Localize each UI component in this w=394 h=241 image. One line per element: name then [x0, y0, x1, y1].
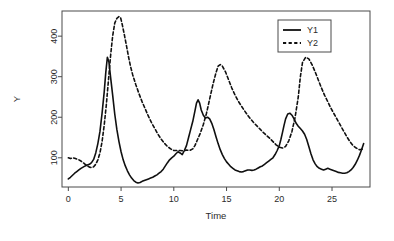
x-axis-tick-label: 20	[274, 194, 284, 204]
x-axis-tick-label: 0	[66, 194, 71, 204]
y-axis-tick-label: 100	[49, 150, 59, 165]
chart-screenshot: 1002003004000510152025TimeYY1Y2	[0, 0, 394, 241]
y-axis-tick-label: 300	[49, 69, 59, 84]
legend-box	[278, 20, 331, 52]
legend-label-y2: Y2	[307, 38, 318, 48]
y-axis-title: Y	[11, 95, 22, 102]
legend-label-y1: Y1	[307, 25, 318, 35]
line-chart: 1002003004000510152025TimeYY1Y2	[0, 0, 394, 241]
x-axis-tick-label: 10	[169, 194, 179, 204]
series-line-y1	[68, 57, 363, 183]
y-axis-tick-label: 200	[49, 110, 59, 125]
x-axis-tick-label: 5	[119, 194, 124, 204]
x-axis-title: Time	[206, 210, 227, 221]
x-axis-tick-label: 15	[222, 194, 232, 204]
y-axis-tick-label: 400	[49, 29, 59, 44]
x-axis-tick-label: 25	[327, 194, 337, 204]
